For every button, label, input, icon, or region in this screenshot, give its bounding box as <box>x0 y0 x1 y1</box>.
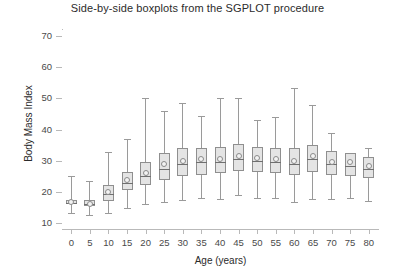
mean-marker-icon <box>87 201 93 207</box>
whisker-lower <box>294 175 295 202</box>
x-axis-tick <box>239 229 240 234</box>
x-axis-tick <box>183 229 184 234</box>
y-axis-tick-label: 20 <box>0 187 52 197</box>
whisker-cap-upper <box>328 133 335 134</box>
whisker-upper <box>108 152 109 186</box>
y-axis-tick-label: 30 <box>0 156 52 166</box>
chart-title: Side-by-side boxplots from the SGPLOT pr… <box>0 2 395 14</box>
whisker-cap-lower <box>235 195 242 196</box>
x-axis-tick <box>90 229 91 234</box>
x-axis-tick-label: 80 <box>356 238 382 248</box>
x-axis-tick <box>201 229 202 234</box>
whisker-cap-upper <box>235 98 242 99</box>
median-line <box>215 162 226 163</box>
whisker-cap-lower <box>347 198 354 199</box>
whisker-lower <box>108 201 109 213</box>
whisker-upper <box>257 120 258 147</box>
whisker-lower <box>368 178 369 201</box>
median-line <box>177 164 188 165</box>
whisker-upper <box>368 148 369 157</box>
x-axis-tick <box>350 229 351 234</box>
y-axis-tick-label: 10 <box>0 218 52 228</box>
y-axis-tick-label: 70 <box>0 31 52 41</box>
x-axis-tick <box>108 229 109 234</box>
mean-marker-icon <box>217 156 223 162</box>
median-line <box>270 162 281 163</box>
whisker-cap-upper <box>365 148 372 149</box>
x-axis-tick <box>146 229 147 234</box>
mean-marker-icon <box>180 158 186 164</box>
median-line <box>345 166 356 167</box>
whisker-cap-lower <box>142 204 149 205</box>
whisker-upper <box>145 98 146 162</box>
whisker-cap-lower <box>105 213 112 214</box>
median-line <box>233 159 244 160</box>
whisker-cap-lower <box>365 201 372 202</box>
x-axis-tick <box>257 229 258 234</box>
y-axis-tick <box>56 130 62 131</box>
median-line <box>140 176 151 177</box>
whisker-cap-lower <box>328 199 335 200</box>
mean-marker-icon <box>236 153 242 159</box>
whisker-cap-lower <box>124 208 131 209</box>
mean-marker-icon <box>124 177 130 183</box>
whisker-upper <box>275 117 276 148</box>
x-axis-tick <box>332 229 333 234</box>
whisker-lower <box>182 176 183 200</box>
whisker-cap-lower <box>179 200 186 201</box>
whisker-upper <box>220 98 221 147</box>
median-line <box>289 164 300 165</box>
whisker-cap-upper <box>161 111 168 112</box>
plot-area <box>62 30 378 229</box>
x-axis-tick <box>164 229 165 234</box>
y-axis-tick-label: 40 <box>0 125 52 135</box>
mean-marker-icon <box>329 159 335 165</box>
mean-marker-icon <box>291 158 297 164</box>
y-axis-tick <box>56 223 62 224</box>
whisker-upper <box>127 139 128 172</box>
whisker-lower <box>350 176 351 198</box>
whisker-lower <box>201 175 202 198</box>
whisker-cap-lower <box>291 202 298 203</box>
x-axis-tick <box>71 229 72 234</box>
whisker-cap-upper <box>68 176 75 177</box>
whisker-cap-upper <box>142 98 149 99</box>
whisker-cap-lower <box>198 198 205 199</box>
x-axis-tick <box>220 229 221 234</box>
whisker-cap-upper <box>179 103 186 104</box>
y-axis-tick-label: 50 <box>0 93 52 103</box>
median-line <box>307 159 318 160</box>
whisker-lower <box>71 204 72 213</box>
whisker-lower <box>238 171 239 194</box>
y-axis-tick-label: 60 <box>0 62 52 72</box>
whisker-lower <box>164 180 165 203</box>
whisker-cap-upper <box>124 139 131 140</box>
y-axis-tick <box>56 192 62 193</box>
whisker-upper <box>238 98 239 143</box>
whisker-upper <box>201 116 202 149</box>
whisker-lower <box>220 173 221 199</box>
median-line <box>363 169 374 170</box>
whisker-lower <box>275 173 276 198</box>
whisker-upper <box>71 176 72 200</box>
whisker-cap-upper <box>217 98 224 99</box>
whisker-cap-upper <box>309 105 316 106</box>
y-axis-tick <box>56 161 62 162</box>
x-axis-tick <box>127 229 128 234</box>
whisker-upper <box>294 88 295 148</box>
median-line <box>252 161 263 162</box>
whisker-upper <box>182 103 183 148</box>
whisker-cap-lower <box>161 202 168 203</box>
whisker-cap-lower <box>309 199 316 200</box>
x-axis-tick <box>276 229 277 234</box>
y-axis-tick <box>56 67 62 68</box>
whisker-lower <box>145 185 146 204</box>
y-axis-tick <box>56 98 62 99</box>
whisker-cap-lower <box>272 198 279 199</box>
mean-marker-icon <box>366 163 372 169</box>
whisker-lower <box>257 172 258 198</box>
whisker-lower <box>331 175 332 200</box>
whisker-cap-upper <box>291 88 298 89</box>
whisker-cap-upper <box>105 152 112 153</box>
whisker-lower <box>127 190 128 208</box>
